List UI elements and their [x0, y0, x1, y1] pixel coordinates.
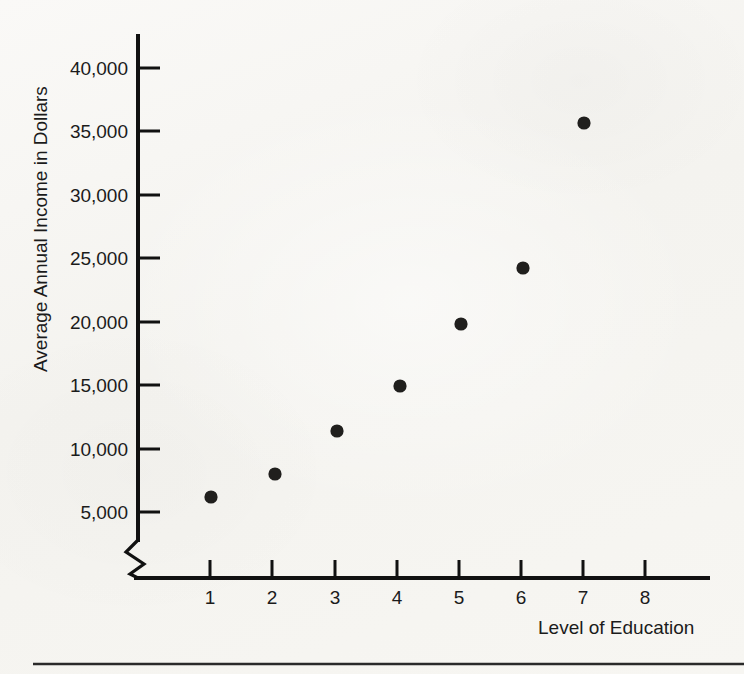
x-axis-tick-labels: 1 2 3 4 5 6 7 8	[205, 587, 651, 608]
y-axis-ticks	[138, 68, 160, 512]
x-tick-label-6: 6	[516, 587, 527, 608]
y-tick-label-25000: 25,000	[70, 248, 128, 269]
data-point	[204, 490, 217, 503]
y-tick-label-20000: 20,000	[70, 312, 128, 333]
data-point	[268, 467, 281, 480]
y-tick-label-40000: 40,000	[70, 58, 128, 79]
x-tick-label-1: 1	[205, 587, 216, 608]
x-tick-label-7: 7	[578, 587, 589, 608]
x-tick-label-5: 5	[454, 587, 465, 608]
y-tick-label-15000: 15,000	[70, 375, 128, 396]
data-point	[454, 317, 467, 330]
y-axis-tick-labels: 40,000 35,000 30,000 25,000 20,000 15,00…	[70, 58, 128, 523]
data-point	[516, 261, 529, 274]
y-axis-break-icon	[126, 540, 144, 578]
x-axis-title: Level of Education	[538, 617, 694, 638]
y-tick-label-10000: 10,000	[70, 439, 128, 460]
x-tick-label-3: 3	[330, 587, 341, 608]
y-tick-label-35000: 35,000	[70, 121, 128, 142]
scatter-plot-figure: Average Annual Income in Dollars 40,000 …	[0, 0, 744, 674]
x-tick-label-2: 2	[267, 587, 278, 608]
data-point-series	[204, 116, 590, 503]
y-tick-label-5000: 5,000	[80, 502, 128, 523]
y-tick-label-30000: 30,000	[70, 185, 128, 206]
x-tick-label-4: 4	[392, 587, 403, 608]
data-point	[330, 424, 343, 437]
data-point	[577, 116, 590, 129]
data-point	[393, 379, 406, 392]
x-tick-label-8: 8	[640, 587, 651, 608]
x-axis-ticks	[210, 560, 645, 578]
y-axis-title: Average Annual Income in Dollars	[30, 86, 51, 372]
